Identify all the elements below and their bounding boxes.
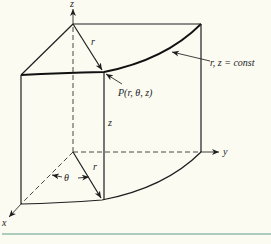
surface-leader-arrow <box>172 52 210 61</box>
height-label: z <box>107 117 112 128</box>
theta-arrow-right <box>78 177 89 178</box>
top-radius <box>73 24 102 70</box>
top-arc <box>21 24 201 75</box>
radius-top-label: r <box>91 36 95 47</box>
x-axis-arrow <box>9 203 22 217</box>
point-label: P(r, θ, z) <box>117 87 153 99</box>
point-leader-arrow <box>106 74 122 84</box>
theta-arrow-left <box>52 175 62 177</box>
bottom-arc <box>21 152 201 204</box>
cylindrical-coordinates-diagram: z y x r r z θ P(r, θ, z) r, z = const <box>0 0 271 244</box>
theta-label: θ <box>64 172 69 183</box>
z-axis-label: z <box>69 0 74 9</box>
y-axis-label: y <box>222 146 228 157</box>
surface-label: r, z = const <box>210 57 255 68</box>
radius-bottom-label: r <box>93 161 97 172</box>
top-edge-left <box>21 24 73 75</box>
bottom-radius <box>73 152 101 198</box>
x-axis-label: x <box>1 217 7 228</box>
